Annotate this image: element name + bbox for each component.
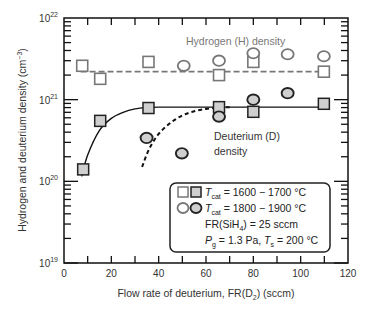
marker-h-circle — [318, 51, 330, 61]
y-tick-labels: 1019102010211022 — [39, 11, 58, 269]
legend-row-2: Tcat = 1800 − 1900 °C — [205, 202, 307, 216]
x-tick-label: 20 — [106, 268, 118, 279]
y-tick-label: 1019 — [39, 256, 58, 269]
marker-h-square — [318, 66, 329, 77]
marker-d-circle — [213, 111, 225, 121]
y-axis-title: Hydrogen and deuterium density (cm−3) — [16, 48, 28, 232]
legend-square-open-marker — [178, 187, 188, 197]
x-axis-title: Flow rate of deuterium, FR(D2) (sccm) — [117, 287, 294, 301]
data-markers — [77, 48, 330, 175]
x-tick-label: 80 — [248, 268, 260, 279]
chart: 020406080100120 1019102010211022 Flow ra… — [0, 0, 371, 310]
marker-d-circle — [247, 94, 259, 104]
annotation-deuterium-1: Deuterium (D) — [214, 130, 280, 142]
marker-h-circle — [282, 49, 294, 59]
marker-d-circle — [282, 88, 294, 98]
legend-row-1: Tcat = 1600 − 1700 °C — [205, 186, 307, 200]
marker-h-circle — [178, 61, 190, 71]
marker-h-square — [77, 60, 88, 71]
annotation-deuterium-2: density — [214, 145, 248, 157]
x-tick-label: 40 — [153, 268, 165, 279]
marker-h-square — [143, 56, 154, 67]
marker-d-square — [143, 103, 154, 114]
y-tick-label: 1021 — [39, 93, 58, 106]
marker-h-circle — [247, 48, 259, 58]
x-tick-labels: 020406080100120 — [61, 268, 357, 279]
legend-circle-filled-marker — [191, 203, 202, 213]
marker-h-circle — [213, 56, 225, 66]
marker-d-square — [248, 106, 259, 117]
x-tick-label: 120 — [340, 268, 357, 279]
marker-d-circle — [141, 133, 153, 143]
legend: Tcat = 1600 − 1700 °C Tcat = 1800 − 1900… — [170, 183, 330, 252]
fit-lines — [81, 72, 330, 177]
x-tick-label: 0 — [61, 268, 67, 279]
legend-circle-open-marker — [178, 203, 189, 213]
y-tick-label: 1022 — [39, 11, 58, 24]
x-tick-label: 60 — [200, 268, 212, 279]
fit-line-2 — [82, 107, 329, 176]
annotation-hydrogen: Hydrogen (H) density — [186, 35, 286, 47]
marker-d-square — [78, 164, 89, 175]
marker-d-square — [95, 115, 106, 126]
marker-h-square — [95, 73, 106, 84]
marker-d-circle — [176, 148, 188, 158]
legend-square-filled-marker — [191, 187, 201, 197]
marker-d-square — [318, 98, 329, 109]
marker-h-square — [214, 70, 225, 81]
x-tick-label: 100 — [292, 268, 309, 279]
legend-row-3: FR(SiH4) = 25 sccm — [205, 218, 298, 232]
y-tick-label: 1020 — [39, 174, 58, 187]
